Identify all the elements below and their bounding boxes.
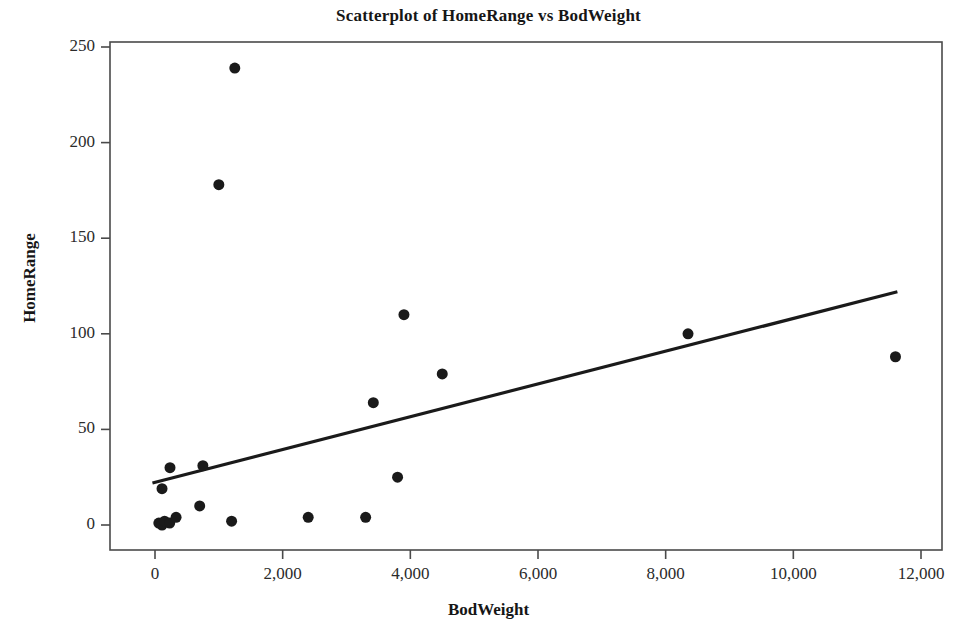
axis-frame [110,42,942,550]
data-point [194,500,205,511]
data-point [683,328,694,339]
x-tick-label: 12,000 [876,564,966,584]
data-point [398,309,409,320]
data-point [360,512,371,523]
data-point [171,512,182,523]
x-tick-label: 6,000 [493,564,583,584]
x-tick-label: 8,000 [621,564,711,584]
y-tick-label: 200 [25,132,95,152]
y-tick-label: 50 [25,418,95,438]
regression-line [152,292,897,483]
data-point [165,462,176,473]
y-tick-label: 100 [25,323,95,343]
data-point [229,63,240,74]
data-point [368,397,379,408]
x-tick-label: 0 [110,564,200,584]
axis-tick-marks [101,47,921,559]
data-point [392,472,403,483]
data-point [437,368,448,379]
data-point [303,512,314,523]
data-point [157,483,168,494]
x-tick-label: 2,000 [238,564,328,584]
y-tick-label: 150 [25,227,95,247]
data-points [153,63,901,531]
y-tick-label: 250 [25,36,95,56]
scatterplot-figure: Scatterplot of HomeRange vs BodWeight Ho… [0,0,977,639]
x-tick-label: 4,000 [365,564,455,584]
plot-canvas [0,0,977,639]
data-point [213,179,224,190]
x-tick-label: 10,000 [748,564,838,584]
data-point [197,460,208,471]
y-tick-label: 0 [25,514,95,534]
data-point [890,351,901,362]
data-point [226,516,237,527]
